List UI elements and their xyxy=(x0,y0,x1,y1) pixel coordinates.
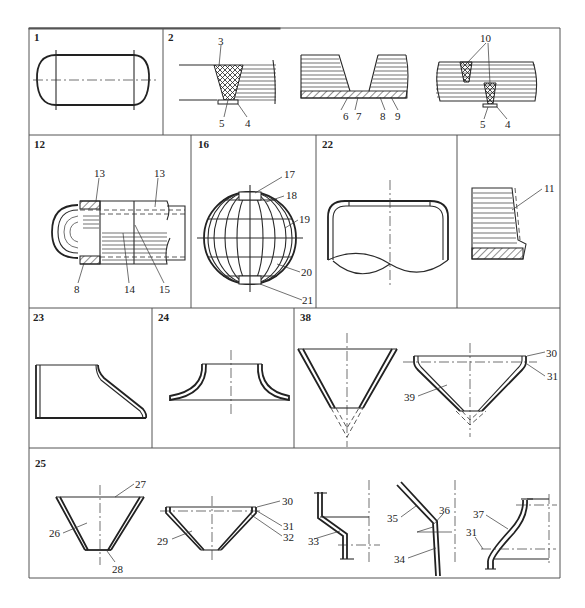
svg-text:19: 19 xyxy=(299,213,311,225)
panel-number: 22 xyxy=(322,138,334,150)
svg-text:4: 4 xyxy=(245,117,251,129)
svg-text:29: 29 xyxy=(157,535,169,547)
svg-text:6: 6 xyxy=(343,110,349,122)
svg-text:5: 5 xyxy=(219,117,225,129)
panel-22: 22 xyxy=(322,138,448,285)
technical-figure: 1 2 3 5 4 xyxy=(0,0,585,608)
panel-number: 1 xyxy=(34,31,40,43)
panel-number: 16 xyxy=(198,138,210,150)
svg-text:27: 27 xyxy=(135,478,147,490)
svg-text:35: 35 xyxy=(387,512,399,524)
svg-text:36: 36 xyxy=(439,504,451,516)
svg-text:4: 4 xyxy=(505,118,511,130)
panel-1: 1 xyxy=(33,31,156,110)
svg-text:26: 26 xyxy=(49,527,61,539)
svg-text:32: 32 xyxy=(283,531,294,543)
panel-24: 24 xyxy=(158,311,289,417)
svg-text:34: 34 xyxy=(394,553,406,565)
panel-11: 11 xyxy=(472,182,555,259)
panel-number: 2 xyxy=(168,31,174,43)
svg-text:15: 15 xyxy=(159,283,171,295)
panel-2: 2 3 5 4 xyxy=(168,31,537,130)
svg-text:17: 17 xyxy=(284,168,296,180)
svg-text:8: 8 xyxy=(380,110,386,122)
panel-number: 38 xyxy=(300,311,312,323)
panel-23: 23 xyxy=(33,311,146,418)
svg-text:14: 14 xyxy=(124,283,136,295)
svg-text:7: 7 xyxy=(356,110,362,122)
svg-text:37: 37 xyxy=(473,508,485,520)
panel-12: 12 13 13 8 14 15 xyxy=(34,138,185,295)
svg-text:33: 33 xyxy=(308,535,320,547)
svg-text:21: 21 xyxy=(302,294,313,306)
svg-text:3: 3 xyxy=(218,35,224,47)
svg-text:13: 13 xyxy=(154,167,166,179)
panel-38: 38 30 31 39 xyxy=(298,311,558,447)
svg-text:31: 31 xyxy=(547,370,558,382)
panel-25: 25 27 26 28 30 31 32 29 33 xyxy=(35,457,557,576)
panel-number: 23 xyxy=(33,311,45,323)
svg-text:31: 31 xyxy=(466,526,477,538)
svg-text:30: 30 xyxy=(282,495,294,507)
panel-number: 24 xyxy=(158,311,170,323)
panel-number: 12 xyxy=(34,138,46,150)
svg-text:39: 39 xyxy=(404,391,416,403)
grid-frame xyxy=(29,28,560,578)
svg-text:8: 8 xyxy=(74,283,80,295)
svg-text:20: 20 xyxy=(301,266,313,278)
panel-number: 25 xyxy=(35,457,47,469)
panel-16: 16 17 18 19 20 21 xyxy=(197,138,313,306)
svg-text:9: 9 xyxy=(395,110,401,122)
svg-text:28: 28 xyxy=(112,563,124,575)
svg-text:13: 13 xyxy=(94,167,106,179)
svg-text:30: 30 xyxy=(546,347,558,359)
svg-text:18: 18 xyxy=(286,189,298,201)
svg-text:5: 5 xyxy=(480,118,486,130)
svg-text:11: 11 xyxy=(544,182,555,194)
svg-text:10: 10 xyxy=(480,32,492,44)
